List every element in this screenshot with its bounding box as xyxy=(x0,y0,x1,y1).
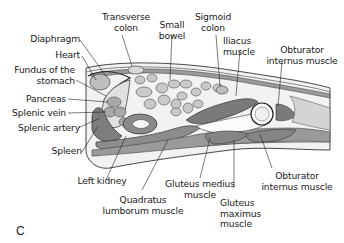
label-sigmoid-colon: Sigmoidcolon xyxy=(188,12,238,33)
sigmoid-colon-shape xyxy=(216,86,228,94)
label-pancreas: Pancreas xyxy=(0,94,66,105)
label-left-kidney: Left kidney xyxy=(72,176,132,187)
label-diaphragm: Diaphragm xyxy=(10,34,80,45)
label-heart: Heart xyxy=(10,50,80,61)
label-splenic-vein: Splenic vein xyxy=(0,108,66,119)
heart-shape xyxy=(90,74,110,90)
label-small-bowel: Smallbowel xyxy=(152,20,192,41)
transverse-colon-shape xyxy=(128,66,144,74)
label-fundus-of-stomach: Fundus of thestomach xyxy=(0,65,75,86)
label-transverse-colon: Transversecolon xyxy=(97,12,155,33)
label-obturator-internus-bottom: Obturatorinternus muscle xyxy=(254,171,340,192)
femoral-head-inner xyxy=(255,107,269,121)
label-iliacus-muscle: Iliacusmuscle xyxy=(223,36,255,57)
label-splenic-artery: Splenic artery xyxy=(0,123,80,134)
panel-letter: C xyxy=(16,224,25,238)
label-obturator-internus-top: Obturatorinternus muscle xyxy=(262,45,342,66)
label-spleen: Spleen xyxy=(0,146,82,157)
label-gluteus-maximus: Gluteusmaximusmuscle xyxy=(220,198,261,230)
